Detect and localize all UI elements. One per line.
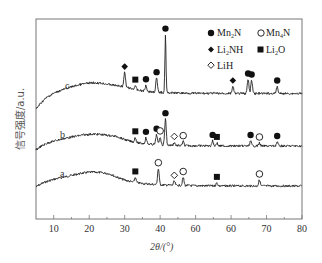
legend-li2o: Li2O — [266, 44, 285, 56]
legend-mn2n: Mn2N — [217, 27, 241, 39]
x-axis-title: 2θ/(°) — [150, 241, 174, 253]
filled-circle-icon — [247, 132, 253, 138]
filled-circle-icon — [153, 69, 159, 75]
filled-diamond-icon — [121, 63, 128, 70]
filled-diamond-icon — [230, 77, 237, 84]
xrd-chart: 1020304060607080 c b a Mn2N Mn4N Li2NH L… — [0, 0, 322, 263]
open-diamond-icon — [171, 133, 178, 140]
x-tick-label: 40 — [155, 223, 165, 234]
x-tick-label: 30 — [120, 223, 130, 234]
x-tick-label: 80 — [297, 223, 307, 234]
x-tick-label: 60 — [191, 223, 201, 234]
filled-square-icon — [214, 134, 220, 140]
open-circle-icon — [155, 159, 162, 166]
open-diamond-icon — [208, 62, 214, 68]
filled-circle-icon — [162, 110, 168, 116]
legend-mn4n: Mn4N — [266, 27, 290, 39]
filled-square-icon — [132, 77, 138, 83]
phase-markers — [121, 25, 280, 179]
legend-li2nh: Li2NH — [217, 44, 243, 56]
x-tick-label: 70 — [262, 223, 272, 234]
curve-label-b: b — [60, 129, 65, 140]
x-tick-label: 60 — [226, 223, 236, 234]
open-circle-icon — [258, 30, 264, 36]
filled-circle-icon — [143, 76, 149, 82]
filled-square-icon — [214, 174, 220, 180]
filled-square-icon — [132, 168, 138, 174]
open-circle-icon — [157, 128, 164, 135]
open-circle-icon — [180, 168, 187, 175]
filled-circle-icon — [274, 77, 280, 83]
filled-square-icon — [132, 128, 138, 134]
open-diamond-icon — [171, 172, 178, 179]
curve-label-c: c — [65, 80, 70, 91]
curve-c — [36, 35, 302, 109]
filled-square-icon — [258, 47, 264, 53]
filled-diamond-icon — [208, 47, 214, 53]
filled-circle-icon — [162, 25, 168, 31]
x-tick-label: 10 — [49, 223, 59, 234]
legend: Mn2N Mn4N Li2NH Li2O LiH — [208, 27, 290, 71]
x-axis-ticks: 1020304060607080 — [49, 215, 307, 234]
x-tick-label: 20 — [84, 223, 94, 234]
filled-circle-icon — [208, 30, 214, 36]
curve-label-a: a — [60, 168, 65, 179]
legend-lih: LiH — [217, 60, 233, 71]
y-axis-title: 信号强度/a.u. — [14, 88, 26, 150]
open-circle-icon — [256, 134, 263, 141]
open-circle-icon — [180, 132, 187, 139]
xrd-curves — [36, 35, 302, 187]
filled-circle-icon — [248, 71, 254, 77]
filled-circle-icon — [143, 129, 149, 135]
filled-circle-icon — [274, 133, 280, 139]
open-circle-icon — [256, 171, 263, 178]
